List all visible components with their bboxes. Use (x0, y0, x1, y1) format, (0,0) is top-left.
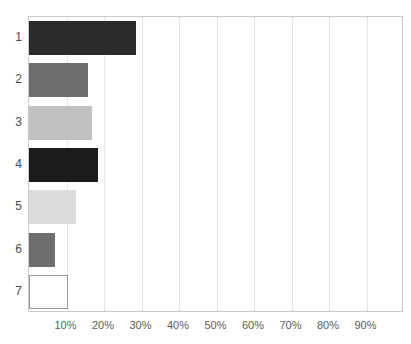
bar-2[interactable] (29, 63, 88, 97)
chart-title-clipped (0, 0, 411, 5)
bar-3[interactable] (29, 106, 92, 140)
bar-4[interactable] (29, 148, 98, 182)
bar-7[interactable] (29, 275, 68, 309)
bar-chart: 1234567 10%20%30%40%50%60%70%80%90% (0, 0, 411, 344)
bar-row (29, 21, 402, 55)
y-axis-label-6: 6 (0, 242, 22, 256)
bar-1[interactable] (29, 21, 136, 55)
bar-row (29, 190, 402, 224)
bar-row (29, 148, 402, 182)
plot-area (28, 16, 403, 312)
x-axis-label-10pct: 10% (54, 318, 76, 332)
y-axis-label-3: 3 (0, 115, 22, 129)
y-axis-label-2: 2 (0, 72, 22, 86)
x-axis-labels: 10%20%30%40%50%60%70%80%90% (28, 318, 403, 334)
bar-row (29, 63, 402, 97)
bar-row (29, 106, 402, 140)
x-axis-label-30pct: 30% (129, 318, 151, 332)
y-axis-labels: 1234567 (0, 16, 22, 312)
bar-5[interactable] (29, 190, 76, 224)
bar-6[interactable] (29, 233, 55, 267)
x-axis-label-40pct: 40% (167, 318, 189, 332)
x-axis-label-90pct: 90% (354, 318, 376, 332)
y-axis-label-7: 7 (0, 284, 22, 298)
y-axis-label-5: 5 (0, 199, 22, 213)
x-axis-label-50pct: 50% (204, 318, 226, 332)
bar-row (29, 275, 402, 309)
bars-layer (29, 17, 402, 311)
bar-row (29, 233, 402, 267)
y-axis-label-4: 4 (0, 157, 22, 171)
x-axis-label-60pct: 60% (242, 318, 264, 332)
x-axis-label-80pct: 80% (317, 318, 339, 332)
x-axis-label-20pct: 20% (92, 318, 114, 332)
x-axis-label-70pct: 70% (279, 318, 301, 332)
y-axis-label-1: 1 (0, 30, 22, 44)
